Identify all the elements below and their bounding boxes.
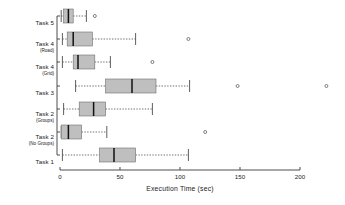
- boxplot-box: [62, 148, 188, 162]
- category-label-sub: (Groups): [36, 119, 54, 124]
- outlier-point: [151, 61, 154, 64]
- category-axis: [57, 16, 60, 155]
- category-label-3: Task 3: [36, 82, 54, 99]
- x-tick-label-50: 50: [105, 173, 135, 180]
- box-iqr: [61, 125, 81, 139]
- outlier-point: [204, 131, 207, 134]
- boxplot-box: [62, 55, 153, 69]
- outlier-point: [93, 15, 96, 18]
- category-label-sub: (Grid): [36, 72, 54, 77]
- category-label-main: Task 4: [36, 40, 54, 47]
- box-iqr: [79, 102, 105, 116]
- boxplot-box: [62, 32, 189, 46]
- category-label-main: Task 3: [36, 89, 54, 96]
- category-label-main: Task 4: [36, 63, 54, 70]
- category-label-main: Task 5: [36, 19, 54, 26]
- x-tick-label-150: 150: [225, 173, 255, 180]
- category-label-main: Task 2: [36, 110, 54, 117]
- x-tick-label-100: 100: [165, 173, 195, 180]
- boxplot-box: [64, 102, 153, 116]
- x-axis-title: Execution Time (sec): [60, 185, 300, 192]
- outlier-point: [236, 85, 239, 88]
- category-label-2: Task 4(Grid): [36, 56, 54, 78]
- category-label-sub: (Road): [36, 49, 54, 54]
- x-tick-label-200: 200: [285, 173, 315, 180]
- box-iqr: [67, 32, 92, 46]
- category-label-main: Task 2: [36, 133, 54, 140]
- outlier-point: [325, 85, 328, 88]
- boxplot-box: [76, 79, 328, 93]
- x-tick-label-0: 0: [45, 173, 75, 180]
- category-label-4: Task 2(Groups): [36, 103, 54, 125]
- category-label-main: Task 1: [36, 158, 54, 165]
- category-label-6: Task 1: [36, 151, 54, 168]
- category-label-sub: (No Groups): [29, 142, 54, 147]
- category-label-5: Task 2(No Groups): [29, 126, 54, 148]
- boxplot-series: [61, 9, 328, 162]
- box-iqr: [106, 79, 156, 93]
- category-label-0: Task 5: [36, 12, 54, 29]
- box-iqr: [100, 148, 136, 162]
- boxplot-box: [61, 9, 96, 23]
- x-axis: [60, 167, 300, 170]
- box-iqr: [73, 55, 95, 69]
- category-label-1: Task 4(Road): [36, 33, 54, 55]
- boxplot-box: [61, 125, 207, 139]
- outlier-point: [187, 38, 190, 41]
